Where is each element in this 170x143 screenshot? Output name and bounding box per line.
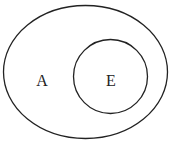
set-a-ellipse	[4, 6, 168, 139]
set-e-label: E	[106, 72, 116, 89]
venn-diagram: A E	[0, 0, 170, 143]
set-a-label: A	[36, 72, 48, 89]
